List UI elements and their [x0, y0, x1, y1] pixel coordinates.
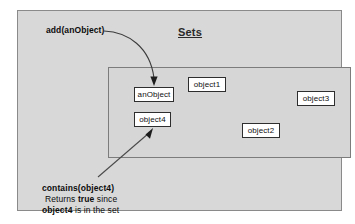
- object-box-object2: object2: [242, 123, 280, 138]
- add-method-annotation: add(anObject): [46, 25, 104, 35]
- contains-call-text: contains(object4): [42, 183, 114, 193]
- contains-method-annotation: contains(object4) Returns true since obj…: [42, 183, 119, 216]
- contains-annotation-line3: object4 is in the set: [42, 205, 119, 216]
- returns-text: Returns: [45, 194, 78, 204]
- contains-annotation-line2: Returns true since: [42, 194, 119, 205]
- true-keyword: true: [78, 194, 94, 204]
- object-box-object3: object3: [297, 91, 335, 106]
- object-box-object1: object1: [188, 77, 226, 92]
- since-text: since: [94, 194, 117, 204]
- in-the-set-text: is in the set: [72, 205, 119, 215]
- object-box-object4: object4: [134, 112, 171, 127]
- contains-annotation-line1: contains(object4): [42, 183, 119, 194]
- diagram-canvas: Sets anObject object4 object1 object2 ob…: [0, 0, 355, 224]
- object4-reference: object4: [42, 205, 72, 215]
- diagram-outer-frame: Sets anObject object4 object1 object2 ob…: [17, 10, 342, 211]
- diagram-title: Sets: [178, 26, 202, 38]
- object-box-anobject: anObject: [134, 87, 174, 102]
